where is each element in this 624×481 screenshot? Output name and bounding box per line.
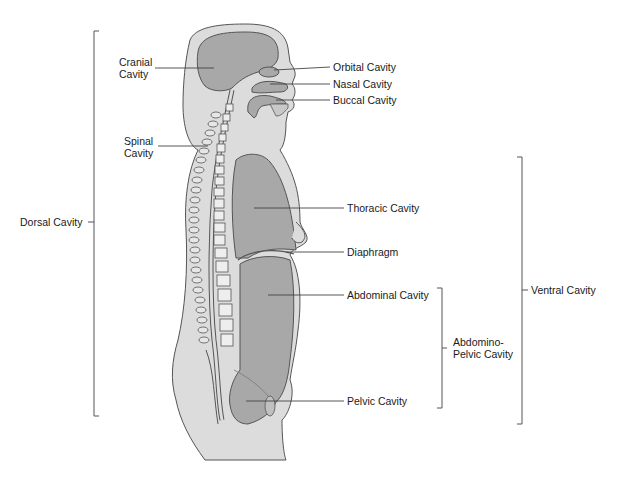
label-spinal-cavity: Spinal Cavity [124,135,153,159]
label-dorsal-cavity: Dorsal Cavity [20,216,82,228]
label-thoracic-cavity: Thoracic Cavity [347,202,419,214]
body-cavities-diagram [0,0,624,481]
abdomino-pelvic-bracket [437,288,447,408]
dorsal-bracket [88,31,99,416]
label-cranial-cavity: Cranial Cavity [119,56,152,80]
label-nasal-cavity: Nasal Cavity [333,78,392,90]
bladder-shape [265,396,275,416]
ventral-bracket [517,157,528,424]
label-ventral-cavity: Ventral Cavity [531,284,596,296]
label-diaphragm: Diaphragm [347,246,398,258]
orbital-cavity-shape [259,67,279,77]
label-orbital-cavity: Orbital Cavity [333,61,396,73]
label-pelvic-cavity: Pelvic Cavity [347,395,407,407]
label-abdominal-cavity: Abdominal Cavity [347,289,429,301]
label-buccal-cavity: Buccal Cavity [333,94,397,106]
label-abdomino-pelvic-cavity: Abdomino- Pelvic Cavity [453,336,513,360]
